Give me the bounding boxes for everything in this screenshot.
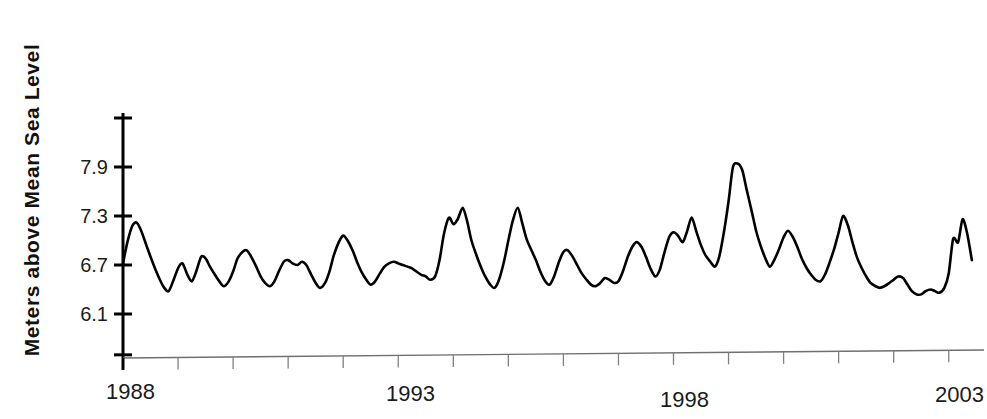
sea-level-data-line xyxy=(123,163,972,295)
x-axis-ticks xyxy=(123,350,949,370)
plot-area xyxy=(0,0,987,419)
sea-level-chart-figure: Meters above Mean Sea Level 7.9 7.3 6.7 … xyxy=(0,0,987,419)
x-axis-line xyxy=(123,350,984,358)
